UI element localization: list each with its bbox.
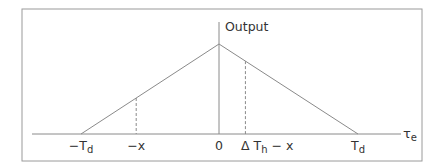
tick-label-delta-th-minus-x: Δ Th − x <box>241 138 293 155</box>
tick-label-pos-td: Td <box>350 138 365 155</box>
tick-label-zero: 0 <box>215 138 223 153</box>
y-axis-label: Output <box>225 19 269 34</box>
tick-label-neg-td: −Td <box>69 138 93 155</box>
tick-label-neg-x: −x <box>127 138 145 153</box>
diagram-canvas: Output τe −Td−x0Δ Th − xTd <box>0 0 443 167</box>
x-axis-label: τe <box>403 126 417 143</box>
